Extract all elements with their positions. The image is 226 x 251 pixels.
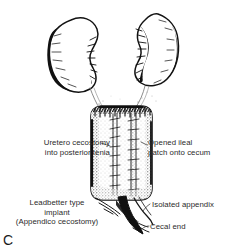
label-leadbetter-implant-line3: (Appendico cecostomy): [1, 217, 113, 227]
label-opened-ileal-patch: Opened ileal patch onto cecum: [148, 138, 226, 157]
label-uretero-cecostomy-line1: Uretero cecostomy: [14, 138, 110, 148]
ureter-implant-stipple: [98, 92, 156, 105]
label-leadbetter-implant: Leadbetter type implant (Appendico cecos…: [1, 198, 113, 227]
label-leadbetter-implant-line1: Leadbetter type: [1, 198, 113, 208]
label-opened-ileal-patch-line2: patch onto cecum: [148, 148, 226, 158]
label-cecal-end-line1: Cecal end: [150, 222, 226, 232]
appendix-outline: [118, 196, 143, 234]
left-kidney-group: [47, 18, 98, 92]
label-leadbetter-implant-line2: implant: [1, 208, 113, 218]
label-isolated-appendix: Isolated appendix: [152, 200, 226, 210]
figure-container: Uretero cecostomy into posterior tenia O…: [0, 0, 226, 251]
leader-cecal-end: [142, 226, 149, 229]
label-opened-ileal-patch-line1: Opened ileal: [148, 138, 226, 148]
label-uretero-cecostomy: Uretero cecostomy into posterior tenia: [14, 138, 110, 157]
label-cecal-end: Cecal end: [150, 222, 226, 232]
label-isolated-appendix-line1: Isolated appendix: [152, 200, 226, 210]
figure-letter: C: [3, 232, 13, 248]
label-uretero-cecostomy-line2: into posterior tenia: [14, 148, 110, 158]
right-ureter: [136, 86, 145, 107]
right-kidney-group: [135, 14, 179, 87]
